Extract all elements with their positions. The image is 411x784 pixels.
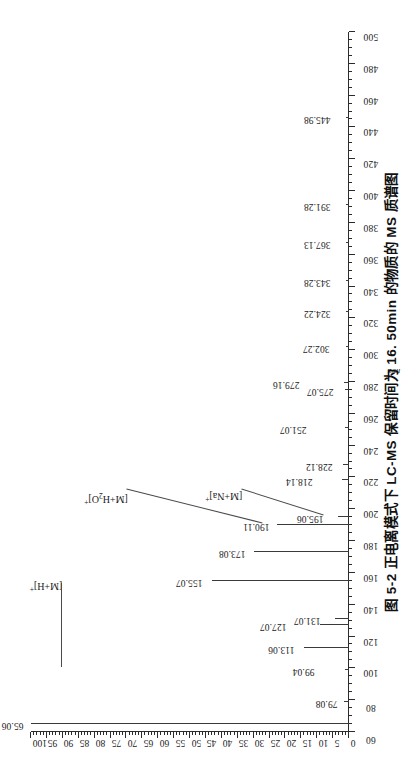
intensity-tick-minor (234, 732, 235, 735)
mz-tick-label: 480 (363, 64, 378, 74)
mz-tick-label: 200 (363, 509, 378, 519)
mz-tick-minor (349, 620, 352, 621)
spectrum-peak (304, 647, 349, 648)
mz-tick-label: 340 (363, 286, 378, 296)
peak-label: 173.08 (219, 548, 246, 558)
intensity-tick-minor (224, 732, 225, 735)
intensity-tick-minor (103, 732, 104, 735)
mz-tick-minor (349, 333, 352, 334)
intensity-tick-minor (278, 732, 279, 735)
intensity-tick-minor (97, 732, 98, 735)
peak-label: 65.06 (1, 720, 23, 730)
intensity-tick-minor (52, 732, 53, 735)
mz-tick-minor (349, 691, 352, 692)
peak-label: 113.06 (268, 644, 294, 654)
mz-tick-label: 280 (363, 382, 378, 392)
mz-tick-minor (349, 405, 352, 406)
mz-tick-minor (349, 659, 352, 660)
mz-tick-label: 360 (363, 255, 378, 265)
peak-label: 445.98 (304, 114, 331, 124)
mz-tick-label: 80 (365, 702, 375, 712)
intensity-tick-minor (186, 732, 187, 735)
intensity-tick-minor (148, 732, 149, 735)
intensity-tick-minor (262, 732, 263, 735)
intensity-tick-minor (202, 732, 203, 735)
intensity-tick-minor (183, 732, 184, 735)
mz-tick-major (349, 667, 355, 668)
intensity-tick-minor (288, 732, 289, 735)
mz-tick-major (349, 95, 355, 96)
spectrum-peak (277, 524, 349, 525)
mz-tick-minor (349, 628, 352, 629)
mz-tick-major (349, 317, 355, 318)
peak-label: 367.13 (303, 239, 330, 249)
mz-tick-minor (349, 55, 352, 56)
peak-label: 275.07 (306, 386, 333, 396)
intensity-tick-minor (303, 732, 304, 735)
mz-tick-label: 260 (363, 414, 378, 424)
mz-tick-minor (349, 301, 352, 302)
mz-tick-label: 300 (363, 350, 378, 360)
intensity-tick-minor (326, 732, 327, 735)
intensity-tick-minor (116, 732, 117, 735)
intensity-tick-minor (218, 732, 219, 735)
mz-tick-minor (349, 47, 352, 48)
mz-tick-minor (349, 715, 352, 716)
mz-tick-minor (349, 206, 352, 207)
mz-tick-minor (349, 596, 352, 597)
mz-tick-major (349, 572, 355, 573)
mz-tick-minor (349, 79, 352, 80)
spectrum-peak (338, 516, 349, 517)
mz-tick-major (349, 381, 355, 382)
intensity-tick-minor (40, 732, 41, 735)
intensity-tick-minor (113, 732, 114, 735)
spectrum-peak (212, 580, 349, 581)
intensity-tick-minor (329, 732, 330, 735)
mz-tick-major (349, 126, 355, 127)
mz-tick-minor (349, 556, 352, 557)
intensity-tick-minor (160, 732, 161, 735)
mz-tick-minor (349, 429, 352, 430)
mz-tick-minor (349, 357, 352, 358)
mz-tick-minor (349, 683, 352, 684)
intensity-tick-minor (138, 732, 139, 735)
peak-label: 218.14 (285, 476, 312, 486)
mz-tick-minor (349, 437, 352, 438)
mz-tick-minor (349, 644, 352, 645)
intensity-tick-minor (338, 732, 339, 735)
mz-tick-minor (349, 142, 352, 143)
mz-tick-minor (349, 492, 352, 493)
mz-tick-minor (349, 651, 352, 652)
intensity-tick-minor (345, 732, 346, 735)
mz-tick-minor (349, 71, 352, 72)
intensity-tick-minor (65, 732, 66, 735)
intensity-tick-minor (192, 732, 193, 735)
intensity-tick-minor (81, 732, 82, 735)
intensity-tick-minor (33, 732, 34, 735)
spectrum-peak (345, 389, 349, 390)
mz-tick-major (349, 63, 355, 64)
intensity-tick-minor (335, 732, 336, 735)
peak-label: 99.04 (293, 666, 315, 676)
mz-tick-minor (349, 461, 352, 462)
peak-label: 131.07 (294, 615, 321, 625)
mz-tick-minor (349, 341, 352, 342)
intensity-tick-minor (43, 732, 44, 735)
mz-tick-minor (349, 309, 352, 310)
mz-tick-minor (349, 134, 352, 135)
spectrum-peak (346, 204, 349, 205)
mz-tick-label: 240 (363, 445, 378, 455)
mz-tick-minor (349, 484, 352, 485)
intensity-tick-minor (259, 732, 260, 735)
intensity-tick-minor (132, 732, 133, 735)
mz-tick-minor (349, 588, 352, 589)
figure-caption: 图 5-2 正电离模式下 LC-MS 保留时间为 16. 50min 的物质的 … (377, 0, 403, 784)
mz-tick-minor (349, 230, 352, 231)
mz-tick-minor (349, 389, 352, 390)
adduct-label: [M+H2O]+ (84, 491, 128, 506)
mz-tick-minor (349, 373, 352, 374)
intensity-tick-minor (164, 732, 165, 735)
mz-tick-minor (349, 111, 352, 112)
spectrum-peak (345, 669, 349, 670)
mz-tick-major (349, 731, 355, 732)
